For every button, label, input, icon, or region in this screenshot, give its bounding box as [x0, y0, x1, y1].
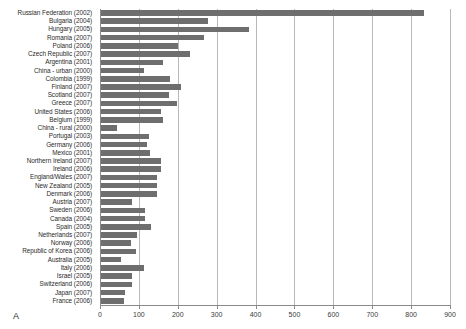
category-label: Poland (2006): [0, 42, 92, 50]
category-label: Spain (2005): [0, 223, 92, 231]
bar: [101, 166, 161, 172]
bar: [101, 84, 181, 90]
category-label: France (2006): [0, 297, 92, 305]
x-tick-700: [372, 305, 373, 309]
category-label: Russian Federation (2002): [0, 9, 92, 17]
bar: [101, 18, 208, 24]
category-label: Denmark (2006): [0, 190, 92, 198]
bar: [101, 175, 157, 181]
bar: [101, 282, 132, 288]
gridline-700: [372, 9, 373, 305]
category-label: Greece (2007): [0, 99, 92, 107]
gridline-500: [294, 9, 295, 305]
bar: [101, 92, 169, 98]
bar: [101, 27, 249, 33]
bar: [101, 150, 150, 156]
category-label: Romania (2007): [0, 34, 92, 42]
category-label: Mexico (2001): [0, 149, 92, 157]
bar: [101, 191, 157, 197]
x-axis-line: [100, 305, 451, 306]
bar: [101, 142, 147, 148]
x-tick-0: [100, 305, 101, 309]
category-label: England/Wales (2007): [0, 173, 92, 181]
bar: [101, 249, 136, 255]
category-label: Italy (2006): [0, 264, 92, 272]
bar: [101, 68, 144, 74]
category-label: Ireland (2006): [0, 165, 92, 173]
category-label: Austria (2007): [0, 198, 92, 206]
x-tick-label-0: 0: [98, 311, 102, 319]
bar: [101, 290, 125, 296]
bar: [101, 125, 117, 131]
category-label: Germany (2006): [0, 141, 92, 149]
x-tick-label-500: 500: [289, 311, 301, 319]
category-label: Belgium (1999): [0, 116, 92, 124]
category-label: Bulgaria (2004): [0, 17, 92, 25]
bar: [101, 298, 124, 304]
category-label: Argentina (2001): [0, 58, 92, 66]
bar: [101, 35, 204, 41]
bar-chart: 0100200300400500600700800900 A Russian F…: [0, 0, 466, 329]
x-tick-label-400: 400: [250, 311, 262, 319]
bar: [101, 240, 131, 246]
bar: [101, 43, 178, 49]
category-label: Republic of Korea (2006): [0, 247, 92, 255]
gridline-300: [217, 9, 218, 305]
x-tick-label-300: 300: [211, 311, 223, 319]
category-label: Canada (2004): [0, 215, 92, 223]
bar: [101, 232, 137, 238]
bar: [101, 265, 144, 271]
x-tick-label-900: 900: [444, 311, 456, 319]
x-tick-200: [178, 305, 179, 309]
x-tick-600: [333, 305, 334, 309]
category-label: Norway (2006): [0, 239, 92, 247]
gridline-900: [450, 9, 451, 305]
category-label: New Zealand (2005): [0, 182, 92, 190]
category-label: Australia (2005): [0, 256, 92, 264]
bar: [101, 224, 151, 230]
category-label: China - rural (2000): [0, 124, 92, 132]
bar: [101, 208, 145, 214]
category-label: Sweden (2006): [0, 206, 92, 214]
category-label: Scotland (2007): [0, 91, 92, 99]
panel-letter: A: [13, 311, 19, 321]
x-tick-label-600: 600: [327, 311, 339, 319]
bar: [101, 76, 170, 82]
x-tick-300: [217, 305, 218, 309]
x-tick-500: [294, 305, 295, 309]
x-tick-100: [139, 305, 140, 309]
bar: [101, 60, 163, 66]
gridline-800: [411, 9, 412, 305]
bar: [101, 10, 424, 16]
x-tick-label-100: 100: [133, 311, 145, 319]
category-label: Switzerland (2006): [0, 280, 92, 288]
category-label: Portugal (2003): [0, 132, 92, 140]
x-tick-900: [450, 305, 451, 309]
x-tick-800: [411, 305, 412, 309]
category-label: Colombia (1999): [0, 75, 92, 83]
gridline-400: [256, 9, 257, 305]
category-label: Finland (2007): [0, 83, 92, 91]
x-tick-label-800: 800: [405, 311, 417, 319]
category-label: Israel (2005): [0, 272, 92, 280]
gridline-600: [333, 9, 334, 305]
category-label: Japan (2007): [0, 289, 92, 297]
bar: [101, 158, 161, 164]
x-tick-400: [256, 305, 257, 309]
category-label: Hungary (2005): [0, 25, 92, 33]
bar: [101, 273, 132, 279]
category-label: Czech Republic (2007): [0, 50, 92, 58]
bar: [101, 101, 177, 107]
category-label: China - urban (2000): [0, 67, 92, 75]
bar: [101, 183, 157, 189]
category-label: United States (2006): [0, 108, 92, 116]
bar: [101, 134, 149, 140]
bar: [101, 117, 163, 123]
category-label: Northern Ireland (2007): [0, 157, 92, 165]
bar: [101, 199, 132, 205]
bar: [101, 51, 190, 57]
bar: [101, 109, 161, 115]
x-tick-label-700: 700: [366, 311, 378, 319]
bar: [101, 216, 145, 222]
category-label: Netherlands (2007): [0, 231, 92, 239]
